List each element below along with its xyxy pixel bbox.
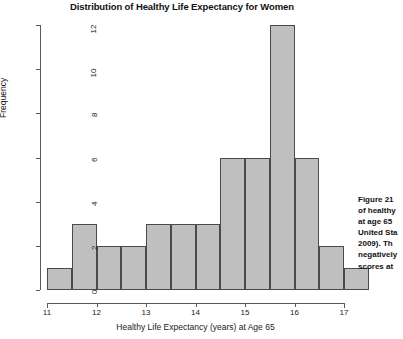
- y-tick-mark: [36, 69, 40, 70]
- x-tick-label: 14: [184, 308, 208, 317]
- x-tick-mark: [146, 303, 147, 307]
- histogram-bar: [121, 246, 146, 290]
- y-tick-label: 6: [90, 157, 99, 161]
- histogram-bar: [196, 224, 221, 290]
- x-tick-mark: [196, 303, 197, 307]
- y-tick-label: 2: [90, 245, 99, 249]
- caption-line: negatively: [358, 249, 403, 260]
- histogram-bar: [270, 25, 295, 290]
- y-tick-label: 0: [90, 290, 99, 294]
- histogram-bar: [319, 246, 344, 290]
- caption-line: of healthy: [358, 205, 403, 216]
- y-axis-line: [40, 25, 41, 290]
- caption-line: Figure 21: [358, 194, 403, 205]
- histogram-bar: [72, 224, 97, 290]
- caption-line: 2009). Th: [358, 238, 403, 249]
- x-tick-mark: [295, 303, 296, 307]
- y-tick-mark: [36, 25, 40, 26]
- y-tick-label: 4: [90, 201, 99, 205]
- y-tick-label: 12: [90, 25, 99, 34]
- histogram-bar: [47, 268, 72, 290]
- histogram-bar: [171, 224, 196, 290]
- x-axis-title: Healthy Life Expectancy (years) at Age 6…: [47, 322, 344, 332]
- y-axis-title: Frequency: [0, 78, 8, 118]
- x-tick-label: 15: [233, 308, 257, 317]
- histogram-figure: Distribution of Healthy Life Expectancy …: [0, 0, 403, 339]
- figure-caption: Figure 21of healthyat age 65United Sta20…: [358, 194, 403, 272]
- y-tick-mark: [36, 202, 40, 203]
- x-tick-label: 16: [283, 308, 307, 317]
- x-tick-label: 17: [332, 308, 356, 317]
- x-tick-mark: [245, 303, 246, 307]
- histogram-bar: [295, 158, 320, 291]
- y-tick-label: 8: [90, 113, 99, 117]
- histogram-bar: [220, 158, 245, 291]
- y-tick-mark: [36, 290, 40, 291]
- histogram-bar: [146, 224, 171, 290]
- caption-line: United Sta: [358, 227, 403, 238]
- y-tick-mark: [36, 158, 40, 159]
- x-tick-label: 12: [85, 308, 109, 317]
- x-tick-label: 13: [134, 308, 158, 317]
- caption-line: scores at: [358, 261, 403, 272]
- histogram-bar: [97, 246, 122, 290]
- y-tick-label: 10: [90, 69, 99, 78]
- histogram-bar: [245, 158, 270, 291]
- y-tick-mark: [36, 113, 40, 114]
- x-tick-label: 11: [35, 308, 59, 317]
- y-tick-mark: [36, 246, 40, 247]
- chart-title: Distribution of Healthy Life Expectancy …: [22, 1, 342, 12]
- caption-line: at age 65: [358, 216, 403, 227]
- x-tick-mark: [97, 303, 98, 307]
